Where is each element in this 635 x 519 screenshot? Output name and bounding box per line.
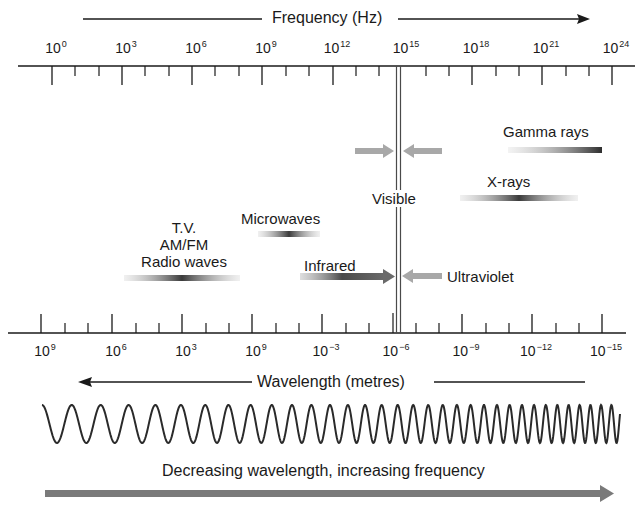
frequency-tick-label: 1021 [533, 39, 560, 56]
ultraviolet-label: Ultraviolet [447, 268, 514, 285]
visible-pointer-arrows [355, 144, 442, 158]
gamma-label: Gamma rays [503, 123, 589, 140]
chirp-wave [42, 405, 620, 443]
wavelength-tick-label: 10−6 [383, 342, 410, 359]
wavelength-tick-label: 109 [34, 342, 56, 359]
wavelength-tick-label: 10−3 [313, 342, 340, 359]
microwaves-label: Microwaves [241, 210, 320, 227]
frequency-tick-label: 1015 [393, 39, 420, 56]
amfm-label: AM/FM [125, 236, 243, 253]
gamma-band-bar [508, 147, 602, 153]
frequency-axis-title: Frequency (Hz) [272, 9, 382, 26]
radio-band-bar [124, 275, 240, 281]
wavelength-tick-label: 10−15 [590, 342, 622, 359]
frequency-tick-label: 103 [115, 39, 137, 56]
frequency-tick-label: 1024 [603, 39, 630, 56]
ultraviolet-arrow [402, 269, 442, 283]
frequency-axis [18, 66, 635, 85]
tv-label: T.V. [125, 219, 243, 236]
footer-caption: Decreasing wavelength, increasing freque… [162, 462, 485, 479]
wavelength-tick-label: 10−12 [520, 342, 552, 359]
infrared-label: Infrared [304, 257, 356, 274]
visible-label: Visible [370, 190, 418, 207]
frequency-tick-label: 106 [185, 39, 207, 56]
microwave-band-bar [258, 231, 320, 237]
frequency-tick-label: 1012 [324, 39, 351, 56]
wavelength-tick-label: 106 [105, 342, 127, 359]
wavelength-tick-label: 103 [175, 342, 197, 359]
frequency-tick-label: 109 [255, 39, 277, 56]
wavelength-tick-label: 109 [245, 342, 267, 359]
radio-label-block: T.V. AM/FM Radio waves [125, 219, 243, 270]
direction-arrow [45, 485, 614, 502]
xray-band-bar [460, 195, 578, 201]
wavelength-axis-title: Wavelength (metres) [257, 373, 405, 390]
wavelength-axis [8, 313, 626, 333]
radio-waves-label: Radio waves [125, 253, 243, 270]
frequency-tick-label: 100 [45, 39, 67, 56]
wavelength-tick-label: 10−9 [453, 342, 480, 359]
xrays-label: X-rays [487, 173, 530, 190]
frequency-tick-label: 1018 [463, 39, 490, 56]
